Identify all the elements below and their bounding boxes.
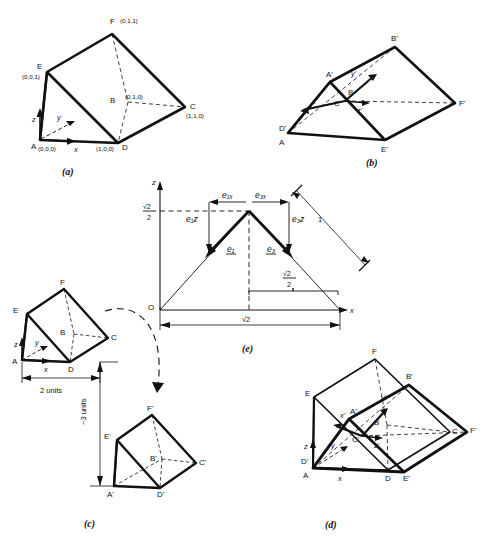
vertex-label-Ep-c: E' bbox=[104, 432, 111, 441]
vertex-label-D-a: D bbox=[122, 143, 128, 152]
axis-label-xp-d: x' bbox=[339, 411, 346, 420]
vertex-coords-D-a: (1,0,0) bbox=[96, 145, 114, 152]
vertex-label-E-d: E bbox=[305, 389, 310, 398]
axis-label-x-c: x bbox=[43, 365, 48, 374]
panel-label-a: (a) bbox=[62, 166, 74, 178]
vertex-label-Ep-d: E' bbox=[403, 474, 410, 483]
vertex-label-Cp-c: C' bbox=[199, 458, 207, 467]
full-base-label-e: √2 bbox=[242, 315, 250, 324]
technical-figure: z y x A (0,0,0) D (1,0,0) B (0,1,0) C (1… bbox=[0, 0, 501, 552]
vertex-label-Dp-c: D' bbox=[157, 490, 165, 499]
vertex-label-D-c: D bbox=[68, 365, 74, 374]
axis-label-z-c: z bbox=[13, 340, 18, 349]
vertex-label-A-c: A bbox=[12, 357, 18, 366]
vertex-label-F-c: F bbox=[60, 278, 65, 287]
vertex-label-A-b: A bbox=[279, 138, 285, 147]
vertex-label-Fp-d: F' bbox=[470, 426, 477, 435]
vertex-label-A-a: A bbox=[31, 142, 37, 151]
component-label-e1z: e₁z bbox=[186, 214, 198, 224]
dim-label-3units-c: −3 units bbox=[79, 398, 88, 425]
vertex-label-B-a: B bbox=[110, 96, 115, 105]
vertex-label-B-c: B bbox=[60, 328, 65, 337]
axis-label-x-a: x bbox=[73, 145, 78, 154]
vertex-label-F-a: F bbox=[110, 17, 115, 26]
axis-label-zp-b: z' bbox=[356, 106, 363, 115]
vertex-label-Dp-b: D' bbox=[279, 124, 287, 133]
vector-label-e3: e₃ bbox=[267, 244, 276, 254]
axis-label-x-e: x bbox=[349, 306, 354, 315]
vertex-label-C-a: C bbox=[190, 102, 196, 111]
vertex-label-Bp-b: B' bbox=[391, 34, 398, 43]
panel-label-c: (c) bbox=[84, 518, 95, 530]
vertex-coords-F-a: (0,1,1) bbox=[120, 17, 138, 24]
vertex-label-Bp-d: B' bbox=[406, 372, 413, 381]
vertex-coords-C-a: (1,1,0) bbox=[186, 112, 204, 119]
vertex-label-A-d: A bbox=[303, 471, 309, 480]
axis-label-xp-b: x' bbox=[311, 97, 318, 106]
half-base-numerator-e: √2 bbox=[283, 270, 291, 277]
axis-label-z-d: z bbox=[303, 442, 308, 451]
vertex-label-Fp-b: F' bbox=[459, 99, 466, 108]
axis-label-x-d: x bbox=[337, 474, 342, 483]
axis-label-z-e: z bbox=[151, 178, 156, 187]
figure-background bbox=[0, 0, 501, 552]
vertex-label-C-c: C bbox=[111, 333, 117, 342]
vertex-label-Ep-b: E' bbox=[381, 145, 388, 154]
vertex-label-D-d: D bbox=[385, 474, 391, 483]
axis-label-yp-d: y' bbox=[380, 393, 387, 402]
vertex-label-B-b: B bbox=[348, 88, 353, 97]
vertex-label-Ap-c: A' bbox=[107, 490, 114, 499]
dim-label-2units-c: 2 units bbox=[40, 386, 62, 395]
dimension-label-hyp-e: 1 bbox=[318, 215, 322, 224]
vertex-label-Cp-d: C' bbox=[352, 435, 360, 444]
component-label-e1x: e₁ₓ bbox=[222, 190, 233, 200]
vertex-coords-E-a: (0,0,1) bbox=[22, 73, 40, 80]
axis-x-d bbox=[313, 468, 347, 469]
component-label-e3z: e₃z bbox=[292, 214, 305, 224]
vertex-label-Cp-b: C' bbox=[334, 99, 342, 108]
axis-label-z-a: z bbox=[31, 115, 36, 124]
origin-label-e: O bbox=[148, 303, 154, 312]
vector-label-e1: e₁ bbox=[227, 244, 235, 254]
vertex-label-F-d: F bbox=[372, 347, 377, 356]
vertex-label-B-d: B bbox=[374, 418, 379, 427]
vertex-coords-A-a: (0,0,0) bbox=[38, 145, 56, 152]
vertex-label-C-d: C bbox=[452, 427, 458, 436]
z-tick-denominator-e: 2 bbox=[147, 214, 151, 221]
vertex-label-Bp-c: B' bbox=[150, 454, 157, 463]
vertex-label-Fp-c: F' bbox=[147, 404, 154, 413]
vertex-label-E-c: E bbox=[13, 306, 18, 315]
half-base-denominator-e: 2 bbox=[287, 281, 291, 288]
axis-label-zp-d: z' bbox=[373, 441, 380, 450]
panel-label-d: (d) bbox=[325, 519, 337, 531]
z-tick-numerator-e: √2 bbox=[143, 203, 151, 210]
component-label-e3x: e₃ₓ bbox=[255, 190, 267, 200]
panel-label-e: (e) bbox=[242, 343, 253, 355]
vertex-label-E-a: E bbox=[37, 62, 42, 71]
axis-label-yp-b: y' bbox=[350, 69, 357, 78]
vertex-label-Ap-d: A' bbox=[350, 407, 357, 416]
vertex-label-Dp-d: D' bbox=[301, 457, 309, 466]
panel-label-b: (b) bbox=[366, 157, 378, 169]
figure-container: z y x A (0,0,0) D (1,0,0) B (0,1,0) C (1… bbox=[0, 0, 501, 552]
vertex-coords-B-a: (0,1,0) bbox=[125, 93, 143, 100]
vertex-label-Ap-b: A' bbox=[326, 70, 333, 79]
